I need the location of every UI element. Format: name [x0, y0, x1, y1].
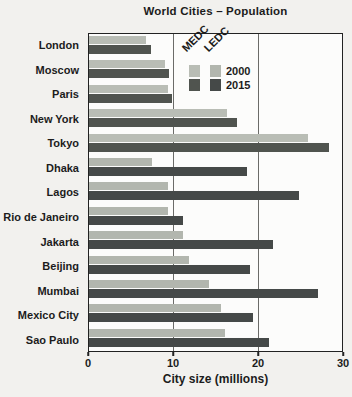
- x-axis-title: City size (millions): [88, 372, 343, 386]
- legend-swatch-medc-2000: [189, 65, 200, 77]
- x-tick-mark-30: [342, 352, 344, 356]
- category-label-mexico-city: Mexico City: [0, 303, 84, 328]
- category-label-mumbai: Mumbai: [0, 278, 84, 303]
- legend-swatch-ledc-2015: [210, 79, 221, 91]
- bar-row-lagos: [89, 180, 342, 204]
- x-tick-label-10: 10: [167, 357, 179, 369]
- bar-row-new-york: [89, 107, 342, 131]
- y-axis-labels: LondonMoscowParisNew YorkTokyoDhakaLagos…: [0, 33, 84, 352]
- category-label-dhaka: Dhaka: [0, 156, 84, 181]
- x-tick-label-30: 30: [337, 357, 349, 369]
- bar-beijing-2000: [89, 256, 189, 264]
- legend-swatch-ledc-2000: [210, 65, 221, 77]
- category-label-jakarta: Jakarta: [0, 229, 84, 254]
- chart-title: World Cities – Population: [88, 5, 343, 17]
- bar-row-sao-paulo: [89, 327, 342, 351]
- bar-london-2000: [89, 36, 146, 44]
- category-label-london: London: [0, 33, 84, 58]
- bar-lagos-2015: [89, 191, 299, 200]
- bar-sao-paulo-2000: [89, 329, 225, 337]
- category-label-rio-de-janeiro: Rio de Janeiro: [0, 205, 84, 230]
- category-label-lagos: Lagos: [0, 180, 84, 205]
- bar-paris-2015: [89, 94, 172, 103]
- plot-area: MEDC LEDC 2000 2015: [88, 33, 343, 352]
- category-label-beijing: Beijing: [0, 254, 84, 279]
- bar-row-mexico-city: [89, 302, 342, 326]
- bar-row-rio-de-janeiro: [89, 205, 342, 229]
- chart-figure: World Cities – Population LondonMoscowPa…: [0, 0, 352, 397]
- legend-swatch-medc-2015: [189, 79, 200, 91]
- x-axis: 0102030: [88, 352, 343, 372]
- x-tick-label-0: 0: [85, 357, 91, 369]
- bar-jakarta-2015: [89, 240, 273, 249]
- bar-jakarta-2000: [89, 231, 183, 239]
- bar-mexico-city-2015: [89, 313, 253, 322]
- bar-moscow-2000: [89, 60, 165, 68]
- bar-row-tokyo: [89, 132, 342, 156]
- category-label-paris: Paris: [0, 82, 84, 107]
- bar-mumbai-2000: [89, 280, 209, 288]
- bar-mumbai-2015: [89, 289, 318, 298]
- legend-row-2015: 2015: [226, 79, 250, 91]
- bar-tokyo-2015: [89, 143, 329, 152]
- category-label-tokyo: Tokyo: [0, 131, 84, 156]
- bar-beijing-2015: [89, 265, 250, 274]
- x-tick-mark-0: [87, 352, 89, 356]
- bar-row-dhaka: [89, 156, 342, 180]
- bar-new-york-2015: [89, 118, 237, 127]
- bar-lagos-2000: [89, 182, 168, 190]
- bar-rio-de-janeiro-2000: [89, 207, 168, 215]
- bar-dhaka-2000: [89, 158, 152, 166]
- legend-row-2000: 2000: [226, 65, 250, 77]
- bar-tokyo-2000: [89, 134, 308, 142]
- x-tick-mark-10: [172, 352, 174, 356]
- bar-row-jakarta: [89, 229, 342, 253]
- bar-row-mumbai: [89, 278, 342, 302]
- category-label-new-york: New York: [0, 107, 84, 132]
- category-label-sao-paulo: Sao Paulo: [0, 327, 84, 352]
- category-label-moscow: Moscow: [0, 58, 84, 83]
- bar-row-beijing: [89, 254, 342, 278]
- bar-new-york-2000: [89, 109, 227, 117]
- bar-london-2015: [89, 45, 151, 54]
- bar-moscow-2015: [89, 69, 169, 78]
- bar-sao-paulo-2015: [89, 338, 269, 347]
- bar-dhaka-2015: [89, 167, 247, 176]
- bar-paris-2000: [89, 85, 168, 93]
- bar-rio-de-janeiro-2015: [89, 216, 183, 225]
- x-tick-mark-20: [257, 352, 259, 356]
- bar-mexico-city-2000: [89, 304, 221, 312]
- x-tick-label-20: 20: [252, 357, 264, 369]
